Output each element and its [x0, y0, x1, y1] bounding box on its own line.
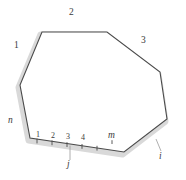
polygon-outline	[20, 32, 167, 152]
edge-label-lower-right-i: i	[159, 152, 162, 162]
base-tick-label-1: 1	[36, 131, 40, 139]
edge-label-bottom-j: j	[67, 160, 70, 170]
edge-label-upper-left: 1	[14, 41, 19, 51]
edge-label-upper-right: 3	[141, 36, 146, 46]
base-tick-label-2: 2	[51, 132, 55, 140]
vertex-label-m: m	[108, 131, 115, 141]
leader-line-i	[156, 139, 161, 151]
edge-label-top: 2	[69, 8, 74, 18]
base-tick-label-3: 3	[66, 133, 70, 141]
base-tick-label-4: 4	[81, 134, 85, 142]
edge-label-left-n: n	[8, 116, 13, 126]
